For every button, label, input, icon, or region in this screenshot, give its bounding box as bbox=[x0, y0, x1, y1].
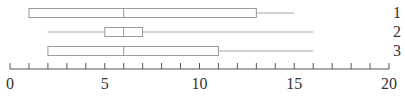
row-labels: 123 bbox=[393, 4, 401, 59]
row-label: 3 bbox=[393, 42, 401, 59]
tick-label: 15 bbox=[286, 75, 302, 92]
tick-label: 20 bbox=[381, 75, 397, 92]
box-plot-2 bbox=[48, 28, 313, 37]
row-label: 2 bbox=[393, 23, 401, 40]
box-plot-1 bbox=[29, 9, 294, 18]
tick-label: 10 bbox=[192, 75, 208, 92]
x-axis: 05101520 bbox=[6, 63, 397, 92]
tick-label: 5 bbox=[101, 75, 109, 92]
box-plot-3 bbox=[48, 47, 313, 56]
box bbox=[48, 47, 219, 56]
box-plot-chart: 05101520 123 bbox=[0, 0, 405, 96]
box bbox=[29, 9, 256, 18]
box-plots bbox=[29, 9, 313, 56]
row-label: 1 bbox=[393, 4, 401, 21]
tick-label: 0 bbox=[6, 75, 14, 92]
